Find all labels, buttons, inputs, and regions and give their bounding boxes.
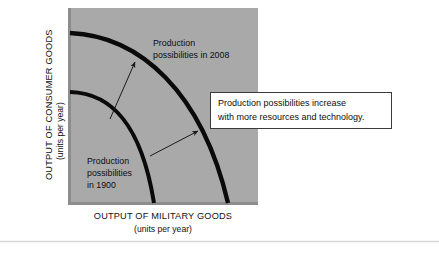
- label-ppf-1900-line2: possibilities: [87, 168, 133, 178]
- x-axis-subtitle: (units per year): [134, 224, 192, 234]
- label-ppf-1900-line3: in 1900: [87, 180, 116, 190]
- ppf-diagram-canvas: Production possibilities in 2008 Product…: [0, 0, 439, 255]
- label-ppf-2008-line1: Production: [153, 38, 195, 48]
- y-axis-subtitle: (units per year): [55, 102, 65, 160]
- y-axis-title: OUTPUT OF CONSUMER GOODS: [44, 29, 54, 180]
- x-axis-title: OUTPUT OF MILITARY GOODS: [94, 211, 232, 221]
- label-ppf-2008-line2: possibilities in 2008: [153, 50, 229, 60]
- label-ppf-1900-line1: Production: [87, 156, 129, 166]
- callout-text-line2: with more resources and technology.: [217, 112, 364, 122]
- callout-text-line1: Production possibilities increase: [218, 98, 346, 108]
- ppf-figure: Production possibilities in 2008 Product…: [0, 0, 439, 255]
